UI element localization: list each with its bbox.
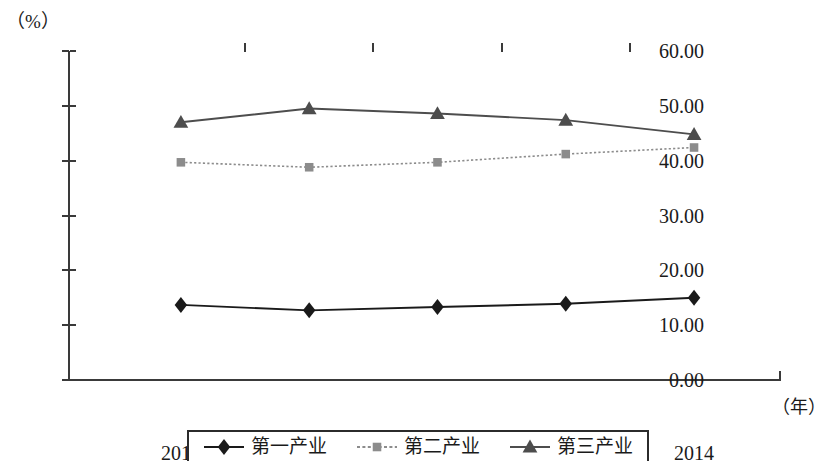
series-2 (177, 143, 699, 171)
square-marker (561, 150, 570, 159)
legend-label: 第三产业 (557, 437, 633, 456)
square-marker (433, 158, 442, 167)
triangle-marker (509, 437, 551, 457)
legend-item-2[interactable]: 第二产业 (352, 437, 484, 457)
series-3 (174, 101, 702, 140)
diamond-marker (431, 299, 443, 315)
x-axis-unit-label: （年） (772, 392, 826, 418)
series-plot (68, 51, 780, 381)
diamond-marker (218, 439, 230, 455)
legend-item-3[interactable]: 第三产业 (505, 437, 637, 457)
square-marker (356, 437, 398, 457)
triangle-marker (302, 101, 317, 114)
diamond-marker (303, 302, 315, 318)
x-tick-label: 2014 (674, 443, 714, 461)
square-marker (305, 163, 314, 172)
legend-item-1[interactable]: 第一产业 (199, 437, 331, 457)
square-marker (690, 143, 699, 152)
square-marker (373, 442, 382, 451)
plot-area: 0.0010.0020.0030.0040.0050.0060.00 20102… (68, 51, 780, 380)
diamond-marker (203, 437, 245, 457)
series-1 (175, 290, 701, 319)
diamond-marker (175, 297, 187, 313)
diamond-marker (560, 296, 572, 312)
line-chart: （%） （年） 0.0010.0020.0030.0040.0050.0060.… (0, 0, 833, 461)
legend-label: 第一产业 (251, 437, 327, 456)
legend-label: 第二产业 (404, 437, 480, 456)
diamond-marker (688, 290, 700, 306)
chart-legend: 第一产业第二产业第三产业 (187, 430, 649, 461)
square-marker (177, 158, 186, 167)
y-axis-unit-label: （%） (6, 6, 60, 33)
